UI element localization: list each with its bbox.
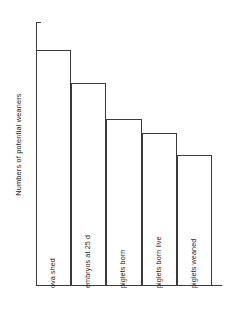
bar-label: piglets born live [154,236,163,288]
y-axis-tick [36,22,41,23]
bar-label: piglets weaned [189,239,198,288]
y-axis-title: Numbers of potential weaners [14,65,23,225]
bar-label: embryos at 25 d [83,235,92,288]
bar-label: ova shed [48,258,57,288]
bar-label: piglets born [118,250,127,288]
bar [36,50,71,286]
bar-chart: Numbers of potential weaners 18161412108… [0,0,242,309]
